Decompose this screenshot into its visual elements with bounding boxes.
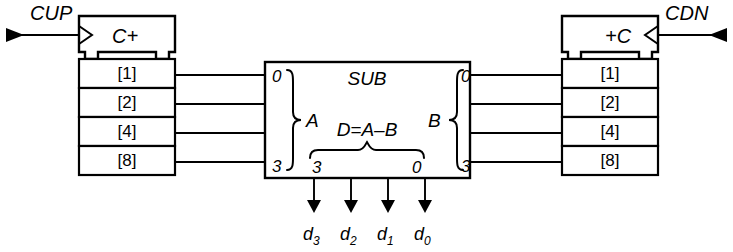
- left-cell-label-2: [2]: [118, 93, 137, 112]
- output-arrowhead-d3: [307, 200, 321, 213]
- sub-output-arrows: [307, 178, 432, 213]
- sub-block-equation: D=A–B: [337, 119, 398, 140]
- left-cell-label-4: [4]: [118, 122, 137, 141]
- output-arrowhead-d1: [381, 200, 395, 213]
- sub-input-b-label: B: [428, 110, 441, 131]
- sub-output-labels: d3 d2 d1 d0: [303, 224, 431, 248]
- output-arrowhead-d2: [344, 200, 358, 213]
- sub-input-a-label: A: [305, 110, 319, 131]
- output-label-d2: d2: [340, 224, 357, 248]
- counter-subtractor-diagram: C+ CUP [1] [2] [4] [8] SUB: [0, 0, 733, 252]
- left-counter[interactable]: C+ CUP [1] [2] [4] [8]: [6, 2, 175, 175]
- sub-output-d-right-index: 0: [412, 158, 422, 177]
- output-label-d0: d0: [414, 224, 431, 248]
- sub-to-right-bus: [470, 75, 562, 162]
- left-cell-label-8: [8]: [118, 151, 137, 170]
- output-arrowhead-d0: [418, 200, 432, 213]
- sub-input-b-top-index: 0: [461, 67, 471, 86]
- right-clock-source-arrow: [709, 28, 727, 42]
- sub-input-b-bottom-index: 3: [461, 157, 471, 176]
- right-cell-label-8: [8]: [601, 151, 620, 170]
- output-subscript-d3: 3: [313, 234, 320, 248]
- output-label-d1: d1: [377, 224, 394, 248]
- right-counter-header-label: +C: [605, 25, 632, 47]
- output-subscript-d1: 1: [387, 234, 394, 248]
- left-to-sub-bus: [175, 75, 265, 162]
- left-clock-source-arrow: [6, 28, 24, 42]
- right-cell-label-4: [4]: [601, 122, 620, 141]
- sub-block[interactable]: SUB 0 3 A D=A–B 3 0 B 0 3: [265, 62, 471, 178]
- left-clock-signal-label: CUP: [30, 2, 73, 24]
- right-cell-label-2: [2]: [601, 93, 620, 112]
- right-counter[interactable]: +C CDN [1] [2] [4] [8]: [562, 2, 727, 175]
- sub-input-a-top-index: 0: [272, 67, 282, 86]
- left-cell-label-1: [1]: [118, 64, 137, 83]
- sub-block-title: SUB: [347, 68, 386, 89]
- sub-output-d-left-index: 3: [312, 158, 322, 177]
- output-subscript-d2: 2: [349, 234, 357, 248]
- output-subscript-d0: 0: [424, 234, 431, 248]
- right-clock-signal-label: CDN: [665, 2, 709, 24]
- output-label-d3: d3: [303, 224, 320, 248]
- left-counter-header-label: C+: [112, 25, 138, 47]
- right-cell-label-1: [1]: [601, 64, 620, 83]
- sub-input-a-bottom-index: 3: [272, 157, 282, 176]
